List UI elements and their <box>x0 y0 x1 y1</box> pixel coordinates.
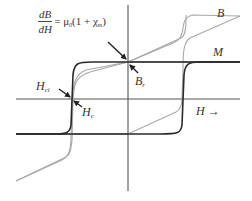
formula-rhs-suffix: ) <box>102 15 106 27</box>
hc-label: Hc <box>82 106 94 120</box>
b-curve-label: B <box>217 7 224 19</box>
h-axis-label: H → <box>196 105 220 117</box>
formula-denominator: dH <box>38 22 51 35</box>
b-curve-upper-branch <box>128 15 240 62</box>
hc-arrow <box>74 101 82 107</box>
slope-formula: dB dH = μ0(1 + χm) <box>38 8 106 35</box>
b-curve-lower-branch <box>16 62 128 181</box>
b-curve <box>16 15 186 181</box>
hci-subscript: ci <box>45 86 50 94</box>
formula-numerator: dB <box>38 8 52 22</box>
hci-label: Hci <box>36 80 50 94</box>
hc-subscript: c <box>91 112 94 120</box>
hc-main: H <box>82 105 91 119</box>
hci-main: H <box>36 79 45 93</box>
br-arrow <box>130 65 138 73</box>
formula-arrow <box>108 42 126 59</box>
formula-rhs-prefix: = μ <box>54 15 69 27</box>
br-label: Br <box>135 75 145 89</box>
hci-arrow <box>59 89 70 97</box>
br-subscript: r <box>142 81 145 89</box>
formula-rhs-mid: (1 + χ <box>72 15 98 27</box>
formula-fraction: dB dH <box>38 8 52 35</box>
arrow-right-icon: → <box>208 104 220 118</box>
m-curve-label: M <box>213 46 223 58</box>
h-axis-text: H <box>196 104 205 118</box>
formula-rhs: = μ0(1 + χm) <box>54 15 106 28</box>
